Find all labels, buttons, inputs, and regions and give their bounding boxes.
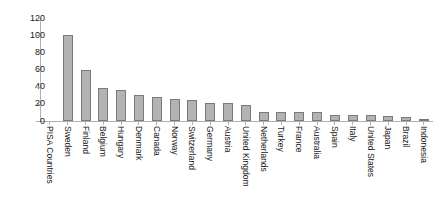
x-tick-label: United Kingdom — [242, 126, 251, 186]
x-label-slot: Hungary — [112, 126, 130, 200]
x-tick-slot — [130, 121, 148, 125]
bar-slot — [344, 18, 362, 121]
x-axis-ticks — [41, 121, 433, 125]
x-label-slot: Turkey — [273, 126, 291, 200]
x-tick-slot — [77, 121, 95, 125]
bar — [294, 112, 304, 121]
bar-slot — [148, 18, 166, 121]
bar — [98, 88, 108, 121]
bar-slot — [308, 18, 326, 121]
bar-slot — [41, 18, 59, 121]
x-tick-mark — [370, 121, 371, 125]
x-label-slot: United Kingdom — [237, 126, 255, 200]
bar-slot — [415, 18, 433, 121]
x-tick-label: Indonesia — [420, 126, 429, 163]
x-tick-slot — [201, 121, 219, 125]
bar — [170, 99, 180, 121]
x-tick-mark — [156, 121, 157, 125]
x-label-slot: Sweden — [59, 126, 77, 200]
x-axis-labels: PISA CountriesSwedenFinlandBelgiumHungar… — [41, 126, 433, 200]
x-label-slot: Japan — [379, 126, 397, 200]
bar-slot — [397, 18, 415, 121]
x-tick-mark — [423, 121, 424, 125]
x-label-slot: Brazil — [397, 126, 415, 200]
x-tick-label: Canada — [153, 126, 162, 156]
bar — [241, 105, 251, 121]
bar-slot — [290, 18, 308, 121]
bar — [312, 112, 322, 121]
x-tick-slot — [94, 121, 112, 125]
x-tick-slot — [41, 121, 59, 125]
bar-slot — [326, 18, 344, 121]
x-label-slot: Belgium — [94, 126, 112, 200]
y-tick-mark — [36, 121, 40, 122]
bar-slot — [59, 18, 77, 121]
x-tick-mark — [228, 121, 229, 125]
bar — [63, 35, 73, 121]
y-tick-mark — [36, 70, 40, 71]
x-tick-mark — [334, 121, 335, 125]
x-label-slot: Finland — [77, 126, 95, 200]
bar-slot — [362, 18, 380, 121]
bar-slot — [184, 18, 202, 121]
x-tick-label: Hungary — [117, 126, 126, 158]
x-tick-mark — [245, 121, 246, 125]
bar-slot — [237, 18, 255, 121]
x-tick-slot — [362, 121, 380, 125]
y-tick-mark — [36, 104, 40, 105]
x-tick-label: Denmark — [135, 126, 144, 160]
x-label-slot: Australia — [308, 126, 326, 200]
x-tick-slot — [326, 121, 344, 125]
plot-area — [41, 18, 433, 121]
x-tick-mark — [352, 121, 353, 125]
x-tick-mark — [174, 121, 175, 125]
bar-slot — [201, 18, 219, 121]
x-label-slot: Indonesia — [415, 126, 433, 200]
x-tick-mark — [67, 121, 68, 125]
x-tick-label: France — [295, 126, 304, 152]
x-tick-slot — [273, 121, 291, 125]
x-tick-mark — [85, 121, 86, 125]
x-tick-mark — [317, 121, 318, 125]
bar — [223, 103, 233, 121]
x-tick-label: Spain — [331, 126, 340, 148]
x-label-slot: France — [290, 126, 308, 200]
x-tick-label: PISA Countries — [46, 126, 55, 184]
x-label-slot: Switzerland — [184, 126, 202, 200]
x-tick-mark — [388, 121, 389, 125]
x-label-slot: Canada — [148, 126, 166, 200]
x-tick-label: United States — [366, 126, 375, 177]
bar-slot — [273, 18, 291, 121]
y-tick-mark — [36, 52, 40, 53]
bar-slot — [130, 18, 148, 121]
x-tick-mark — [406, 121, 407, 125]
x-tick-label: Norway — [170, 126, 179, 155]
x-label-slot: Italy — [344, 126, 362, 200]
x-tick-label: Netherlands — [259, 126, 268, 172]
bar-slot — [166, 18, 184, 121]
x-tick-slot — [379, 121, 397, 125]
bar — [116, 90, 126, 121]
x-tick-mark — [138, 121, 139, 125]
x-tick-slot — [166, 121, 184, 125]
x-tick-mark — [210, 121, 211, 125]
y-tick-mark — [36, 18, 40, 19]
bar — [259, 112, 269, 121]
x-label-slot: United States — [362, 126, 380, 200]
x-tick-label: Japan — [384, 126, 393, 149]
x-tick-mark — [103, 121, 104, 125]
x-label-slot: Spain — [326, 126, 344, 200]
x-tick-label: Belgium — [99, 126, 108, 157]
bar — [205, 103, 215, 121]
x-tick-slot — [397, 121, 415, 125]
bar — [134, 95, 144, 121]
x-tick-slot — [219, 121, 237, 125]
x-tick-slot — [59, 121, 77, 125]
x-tick-label: Italy — [348, 126, 357, 142]
x-label-slot: Denmark — [130, 126, 148, 200]
x-tick-label: Turkey — [277, 126, 286, 152]
x-tick-slot — [344, 121, 362, 125]
bar — [81, 70, 91, 121]
x-tick-mark — [281, 121, 282, 125]
x-tick-label: Australia — [313, 126, 322, 159]
